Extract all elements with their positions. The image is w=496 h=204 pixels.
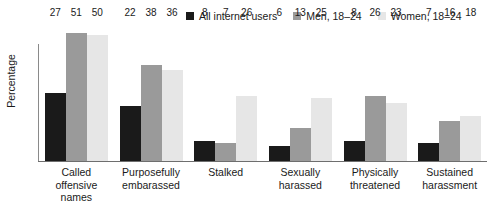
- bar-value-label: 38: [145, 8, 156, 20]
- x-axis-category-label: Called offensive names: [39, 166, 114, 204]
- bar-column[interactable]: 8: [194, 20, 215, 161]
- bar-group: 61325: [263, 20, 338, 161]
- bar[interactable]: 22: [120, 106, 141, 161]
- x-axis-category-label: Physically threatened: [338, 166, 413, 204]
- x-axis-category-label: Purposefully embarassed: [114, 166, 189, 204]
- x-axis-category-label: Sexually harassed: [263, 166, 338, 204]
- bar-column[interactable]: 51: [66, 20, 87, 161]
- bar[interactable]: 27: [45, 93, 66, 161]
- plot-area: 2751502238368726613258262371618: [39, 20, 487, 161]
- bar-column[interactable]: 36: [162, 20, 183, 161]
- bar[interactable]: 13: [290, 128, 311, 161]
- y-axis-title-label: Percentage: [5, 54, 17, 108]
- bar-column[interactable]: 7: [418, 20, 439, 161]
- bar[interactable]: 8: [194, 141, 215, 161]
- bar-column[interactable]: 26: [236, 20, 257, 161]
- bar-value-label: 26: [369, 8, 380, 20]
- bar-value-label: 13: [295, 8, 306, 20]
- bar[interactable]: 8: [344, 141, 365, 161]
- bar-column[interactable]: 8: [344, 20, 365, 161]
- bar-column[interactable]: 23: [386, 20, 407, 161]
- bar[interactable]: 51: [66, 33, 87, 161]
- bar-chart: All internet usersMen, 18–24Women, 18–24…: [0, 0, 496, 204]
- bar-column[interactable]: 16: [439, 20, 460, 161]
- bar-group: 8726: [188, 20, 263, 161]
- bar-column[interactable]: 7: [215, 20, 236, 161]
- bar-group: 275150: [39, 20, 114, 161]
- x-axis-category-labels: Called offensive namesPurposefully embar…: [39, 166, 487, 204]
- bar-column[interactable]: 50: [87, 20, 108, 161]
- y-axis-title: Percentage: [2, 0, 20, 161]
- bar-column[interactable]: 27: [45, 20, 66, 161]
- bar-value-label: 27: [50, 8, 61, 20]
- x-axis-line: [38, 161, 487, 162]
- x-axis-category-label: Stalked: [188, 166, 263, 204]
- bar-column[interactable]: 13: [290, 20, 311, 161]
- bar[interactable]: 18: [460, 116, 481, 161]
- bar-value-label: 7: [223, 8, 229, 20]
- bar-value-label: 36: [166, 8, 177, 20]
- bar-value-label: 7: [426, 8, 432, 20]
- bar-column[interactable]: 6: [269, 20, 290, 161]
- bar-group: 223836: [114, 20, 189, 161]
- bar-value-label: 22: [124, 8, 135, 20]
- bar-value-label: 25: [316, 8, 327, 20]
- bar-value-label: 26: [241, 8, 252, 20]
- bar[interactable]: 26: [236, 96, 257, 161]
- bar[interactable]: 36: [162, 70, 183, 161]
- bar[interactable]: 25: [311, 98, 332, 161]
- bar-value-label: 18: [465, 8, 476, 20]
- bar[interactable]: 38: [141, 65, 162, 161]
- bar-value-label: 51: [71, 8, 82, 20]
- bar-column[interactable]: 25: [311, 20, 332, 161]
- bar-group: 82623: [338, 20, 413, 161]
- bar[interactable]: 26: [365, 96, 386, 161]
- bar-value-label: 8: [202, 8, 208, 20]
- legend-swatch-icon: [186, 12, 194, 20]
- bar-value-label: 16: [444, 8, 455, 20]
- bar-column[interactable]: 22: [120, 20, 141, 161]
- bar[interactable]: 7: [215, 143, 236, 161]
- x-axis-category-label: Sustained harassment: [412, 166, 487, 204]
- bar[interactable]: 7: [418, 143, 439, 161]
- bar[interactable]: 23: [386, 103, 407, 161]
- bar-value-label: 23: [390, 8, 401, 20]
- bar-group: 71618: [412, 20, 487, 161]
- bar[interactable]: 6: [269, 146, 290, 161]
- bar-column[interactable]: 18: [460, 20, 481, 161]
- bar-value-label: 50: [92, 8, 103, 20]
- bar[interactable]: 50: [87, 35, 108, 161]
- bar-value-label: 8: [351, 8, 357, 20]
- bar[interactable]: 16: [439, 121, 460, 161]
- bar-column[interactable]: 26: [365, 20, 386, 161]
- bar-column[interactable]: 38: [141, 20, 162, 161]
- bar-value-label: 6: [277, 8, 283, 20]
